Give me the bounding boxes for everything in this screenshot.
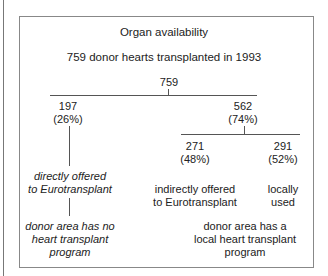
right-condition-2: local heart transplant (185, 233, 305, 246)
right-stem (244, 126, 245, 134)
right-b-label-1: locally (258, 183, 308, 196)
left-value: 197 (48, 100, 88, 113)
right-a-label-1: indirectly offered (145, 183, 245, 196)
left-condition-2: heart transplant (14, 233, 126, 246)
right-condition-3: program (185, 246, 305, 259)
right-a-pct: (48%) (175, 153, 215, 166)
left-stem (69, 126, 70, 166)
left-stem-2 (69, 198, 70, 216)
right-b-pct: (52%) (263, 153, 303, 166)
right-a-value: 271 (175, 140, 215, 153)
right-b-value: 291 (263, 140, 303, 153)
diagram-title: Organ availability (0, 26, 328, 39)
right-pct: (74%) (223, 113, 263, 126)
left-condition-1: donor area has no (14, 220, 126, 233)
right-branch-line (181, 134, 300, 135)
diagram-subtitle: 759 donor hearts transplanted in 1993 (0, 51, 328, 64)
page-border (3, 0, 4, 276)
left-label-2: to Eurotransplant (14, 183, 126, 196)
root-value: 759 (149, 76, 189, 89)
right-condition-1: donor area has a (185, 220, 305, 233)
right-b-label-2: used (258, 196, 308, 209)
root-branch-line (50, 95, 257, 96)
left-label-1: directly offered (14, 170, 126, 183)
right-value: 562 (223, 100, 263, 113)
left-condition-3: program (14, 246, 126, 259)
right-a-label-2: to Eurotransplant (145, 196, 245, 209)
left-pct: (26%) (48, 113, 88, 126)
